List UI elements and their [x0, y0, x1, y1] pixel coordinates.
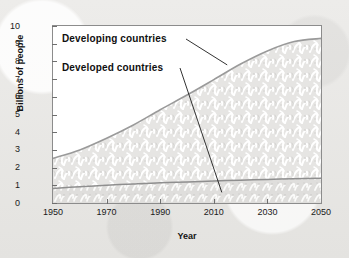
- population-projection-chart: 012345678910 195019701990201020302050 Bi…: [0, 0, 349, 258]
- y-tick-mark-0: [52, 203, 57, 204]
- y-tick-label-2: 2: [0, 163, 20, 172]
- x-tick-label-1970: 1970: [85, 208, 129, 217]
- plot-area: [52, 25, 322, 204]
- y-tick-mark-10: [52, 26, 57, 27]
- y-tick-mark-8: [52, 61, 57, 62]
- y-tick-mark-2: [52, 168, 57, 169]
- y-tick-label-1: 1: [0, 181, 20, 190]
- y-tick-mark-3: [52, 150, 57, 151]
- annotation-developing-countries: Developing countries: [62, 33, 167, 44]
- y-tick-mark-5: [52, 115, 57, 116]
- x-tick-mark-2030: [267, 199, 268, 204]
- area-developing-countries: [53, 38, 321, 188]
- y-tick-label-4: 4: [0, 128, 20, 137]
- annotation-developed-countries: Developed countries: [62, 62, 163, 73]
- y-tick-label-0: 0: [0, 199, 20, 208]
- x-tick-label-2030: 2030: [245, 208, 289, 217]
- x-tick-label-1990: 1990: [138, 208, 182, 217]
- x-axis-title: Year: [52, 231, 322, 241]
- area-chart-svg: [53, 26, 321, 203]
- figure-page: 012345678910 195019701990201020302050 Bi…: [0, 0, 349, 258]
- x-tick-mark-1990: [160, 199, 161, 204]
- x-tick-label-2050: 2050: [299, 208, 343, 217]
- x-tick-label-2010: 2010: [192, 208, 236, 217]
- x-tick-mark-2010: [214, 199, 215, 204]
- x-tick-mark-1970: [107, 199, 108, 204]
- y-tick-label-3: 3: [0, 145, 20, 154]
- y-tick-mark-6: [52, 97, 57, 98]
- y-tick-mark-7: [52, 79, 57, 80]
- x-tick-label-1950: 1950: [31, 208, 75, 217]
- y-tick-mark-4: [52, 132, 57, 133]
- y-tick-mark-1: [52, 185, 57, 186]
- y-tick-mark-9: [52, 44, 57, 45]
- y-axis-title: Billions of people: [15, 17, 25, 129]
